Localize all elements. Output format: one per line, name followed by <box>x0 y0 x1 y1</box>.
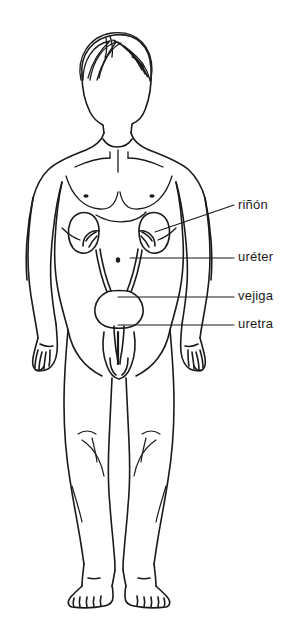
bladder-organ <box>95 291 143 329</box>
label-rinon: riñón <box>238 197 268 212</box>
hair-detail <box>80 33 152 81</box>
kidney-right-organ <box>139 212 170 253</box>
knee-detail <box>78 431 160 476</box>
ureter-left-organ <box>96 249 111 292</box>
kidney-left-organ <box>68 212 99 253</box>
anatomy-figure: riñón uréter vejiga uretra <box>0 0 295 633</box>
arm-right <box>176 182 210 338</box>
calf-detail <box>72 486 166 522</box>
ureter-right-organ <box>127 249 142 292</box>
head-outline <box>82 35 151 133</box>
neck-and-shoulders <box>33 133 205 198</box>
chest-detail <box>62 150 176 240</box>
navel <box>116 257 120 263</box>
leader-line-rinon <box>155 205 234 232</box>
foot-left <box>68 564 115 608</box>
arm-left <box>28 182 62 338</box>
label-uretra: uretra <box>238 316 273 331</box>
urethra-organ <box>114 326 124 364</box>
foot-right <box>123 564 170 608</box>
label-ureter: uréter <box>238 249 273 264</box>
label-vejiga: vejiga <box>238 288 273 303</box>
